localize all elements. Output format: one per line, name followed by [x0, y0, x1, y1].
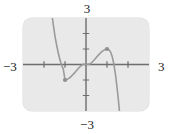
local-maximum-point — [105, 47, 109, 51]
y-axis-min-label: −3 — [0, 118, 174, 131]
plot-area — [23, 18, 149, 111]
x-axis-min-label: −3 — [3, 60, 17, 73]
y-axis-max-label: 3 — [0, 2, 174, 15]
graph-figure: 3 −3 −3 3 — [0, 0, 174, 134]
graph-canvas — [23, 18, 149, 111]
local-minimum-point — [63, 78, 67, 82]
x-axis-max-label: 3 — [158, 60, 165, 73]
